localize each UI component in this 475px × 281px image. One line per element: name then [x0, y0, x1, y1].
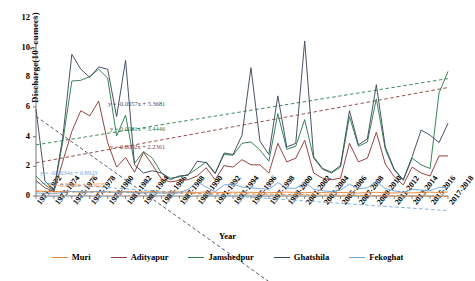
series-line-adityapur: [36, 101, 448, 191]
chart-legend: MuriAdityapurJamshedpurGhatshilaFekoghat: [0, 252, 455, 262]
legend-label: Fekoghat: [369, 252, 403, 262]
legend-swatch-icon: [111, 257, 127, 258]
legend-swatch-icon: [349, 257, 365, 258]
equation-Fekoghat-trend: y = -0.0034x + 0.8923: [40, 169, 97, 176]
equation-Adityapur-trend: y = 0.0092x + 2.2361: [110, 143, 165, 150]
legend-label: Jamshedpur: [208, 252, 253, 262]
legend-item-jamshedpur[interactable]: Jamshedpur: [188, 252, 253, 262]
legend-label: Muri: [72, 252, 91, 262]
legend-item-fekoghat[interactable]: Fekoghat: [349, 252, 403, 262]
legend-swatch-icon: [188, 257, 204, 258]
legend-label: Adityapur: [131, 252, 169, 262]
legend-item-adityapur[interactable]: Adityapur: [111, 252, 169, 262]
legend-swatch-icon: [274, 257, 290, 258]
legend-label: Ghatshila: [294, 252, 329, 262]
equation-Jamshedpur-trend: y = 0.0081x + 3.4446: [110, 125, 165, 132]
legend-item-ghatshila[interactable]: Ghatshila: [274, 252, 329, 262]
series-line-ghatshila: [36, 41, 448, 190]
equation-Ghatshila-trend: y = -0.0357x + 5.3681: [108, 100, 165, 107]
x-axis-title: Year: [0, 231, 455, 241]
legend-swatch-icon: [52, 257, 68, 258]
series-line-jamshedpur: [36, 69, 448, 191]
legend-item-muri[interactable]: Muri: [52, 252, 91, 262]
equation-Muri-trend: y = -0.0006x + 0.3025: [48, 181, 105, 188]
